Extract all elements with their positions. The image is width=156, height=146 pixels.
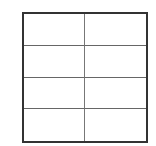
cell-r4-c2 — [85, 109, 146, 141]
cell-r1-c2 — [85, 14, 146, 46]
empty-grid-table — [22, 12, 148, 143]
cell-r1-c1 — [24, 14, 85, 46]
cell-r2-c1 — [24, 46, 85, 78]
cell-r3-c2 — [85, 78, 146, 110]
cell-r3-c1 — [24, 78, 85, 110]
cell-r4-c1 — [24, 109, 85, 141]
cell-r2-c2 — [85, 46, 146, 78]
